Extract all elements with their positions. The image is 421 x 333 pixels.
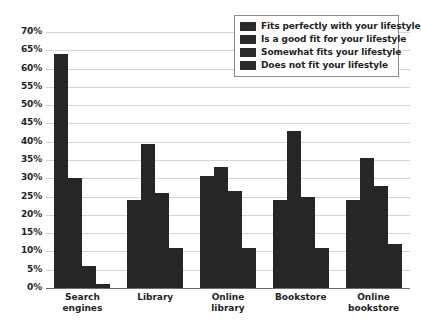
legend-swatch-icon bbox=[240, 35, 256, 44]
y-axis-tick-label: 5% bbox=[2, 265, 42, 274]
x-axis-label-line: engines bbox=[46, 303, 118, 314]
bar bbox=[68, 178, 82, 288]
legend-item-label: Fits perfectly with your lifestyle bbox=[261, 21, 421, 32]
bar bbox=[287, 131, 301, 288]
x-axis-tick-label: Onlinelibrary bbox=[192, 292, 264, 314]
bar bbox=[388, 244, 402, 288]
bar bbox=[141, 144, 155, 288]
legend-item: Fits perfectly with your lifestyle bbox=[240, 20, 393, 33]
y-axis-tick-label: 40% bbox=[2, 137, 42, 146]
legend-item: Is a good fit for your lifestyle bbox=[240, 33, 393, 46]
y-axis-tick-label: 0% bbox=[2, 283, 42, 292]
bar bbox=[96, 284, 110, 288]
bar bbox=[54, 54, 68, 288]
bar bbox=[200, 176, 214, 288]
y-axis-tick-label: 20% bbox=[2, 210, 42, 219]
x-axis-tick-label: Bookstore bbox=[265, 292, 337, 303]
x-axis-label-line: Search bbox=[46, 292, 118, 303]
y-axis-tick-label: 30% bbox=[2, 173, 42, 182]
y-axis-tick-label: 60% bbox=[2, 64, 42, 73]
y-axis-tick-label: 15% bbox=[2, 228, 42, 237]
legend-item-label: Does not fit your lifestyle bbox=[261, 60, 388, 71]
x-axis-label-line: Online bbox=[192, 292, 264, 303]
legend-swatch-icon bbox=[240, 61, 256, 70]
y-axis-tick-label: 10% bbox=[2, 246, 42, 255]
y-axis: 70%65%60%55%50%45%40%35%30%25%20%15%10%5… bbox=[0, 32, 42, 288]
bar bbox=[169, 248, 183, 288]
legend-item: Does not fit your lifestyle bbox=[240, 59, 393, 72]
bar bbox=[301, 197, 315, 288]
bar bbox=[315, 248, 329, 288]
y-axis-tick-label: 65% bbox=[2, 45, 42, 54]
legend-swatch-icon bbox=[240, 22, 256, 31]
bar bbox=[127, 200, 141, 288]
x-axis: SearchenginesLibraryOnlinelibraryBooksto… bbox=[46, 292, 410, 332]
bar-group bbox=[119, 32, 192, 288]
y-axis-tick-label: 45% bbox=[2, 118, 42, 127]
x-axis-label-line: Library bbox=[119, 292, 191, 303]
x-axis-label-line: Bookstore bbox=[265, 292, 337, 303]
bar bbox=[273, 200, 287, 288]
x-axis-tick-label: Searchengines bbox=[46, 292, 118, 314]
y-axis-tick-label: 25% bbox=[2, 192, 42, 201]
x-axis-label-line: Online bbox=[338, 292, 410, 303]
x-axis-label-line: library bbox=[192, 303, 264, 314]
bar-group bbox=[46, 32, 119, 288]
axis-baseline bbox=[46, 288, 410, 289]
bar bbox=[228, 191, 242, 288]
bar bbox=[82, 266, 96, 288]
y-axis-tick-label: 35% bbox=[2, 155, 42, 164]
x-axis-tick-label: Onlinebookstore bbox=[338, 292, 410, 314]
bar bbox=[346, 200, 360, 288]
bar bbox=[360, 158, 374, 288]
bar bbox=[214, 167, 228, 288]
y-axis-tick-label: 50% bbox=[2, 100, 42, 109]
x-axis-tick-label: Library bbox=[119, 292, 191, 303]
legend-item-label: Is a good fit for your lifestyle bbox=[261, 34, 406, 45]
y-axis-tick-label: 55% bbox=[2, 82, 42, 91]
y-axis-tick-label: 70% bbox=[2, 27, 42, 36]
legend-swatch-icon bbox=[240, 48, 256, 57]
bar bbox=[374, 186, 388, 288]
x-axis-label-line: bookstore bbox=[338, 303, 410, 314]
bar bbox=[242, 248, 256, 288]
legend-item-label: Somewhat fits your lifestyle bbox=[261, 47, 401, 58]
legend-item: Somewhat fits your lifestyle bbox=[240, 46, 393, 59]
chart-legend: Fits perfectly with your lifestyleIs a g… bbox=[234, 15, 399, 77]
bar bbox=[155, 193, 169, 288]
